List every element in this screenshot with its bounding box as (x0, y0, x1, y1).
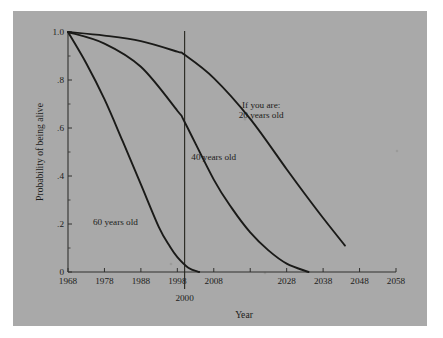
x-axis-tick-labels: 196819781988199820082028203820482058 (59, 276, 406, 286)
x-axis-title: Year (235, 309, 253, 320)
annotation-forty: 40 years old (191, 152, 236, 162)
x-tick-label: 2048 (350, 276, 369, 286)
y-tick-label: .2 (57, 219, 64, 229)
x-tick-label: 2058 (387, 276, 406, 286)
y-axis-ticks (68, 32, 72, 272)
x-tick-label: 2028 (277, 276, 296, 286)
y-tick-label: 0 (59, 267, 64, 277)
annotation-if-you-are: If you are:20 years old (239, 100, 284, 121)
y-tick-label: .6 (57, 123, 64, 133)
x-tick-label: 1968 (59, 276, 78, 286)
y-axis-tick-labels: 0.2.4.6.81.0 (53, 27, 65, 277)
y-tick-label: .8 (57, 75, 64, 85)
reference-line-2000: 2000 (175, 31, 194, 303)
curve-60-years-old (68, 32, 199, 272)
y-tick-label: 1.0 (53, 27, 65, 37)
y-tick-label: .4 (57, 171, 64, 181)
reference-line-label: 2000 (175, 293, 194, 303)
y-axis-title: Probability of being alive (34, 103, 45, 201)
x-tick-label: 2008 (205, 276, 224, 286)
x-tick-label: 2038 (314, 276, 333, 286)
x-tick-label: 1988 (132, 276, 151, 286)
x-axis-ticks (68, 268, 396, 272)
x-tick-label: 1978 (95, 276, 114, 286)
survival-probability-chart: 196819781988199820082028203820482058 0.2… (13, 11, 427, 326)
curve-40-years-old (68, 32, 309, 272)
chart-annotations: If you are:20 years old40 years old60 ye… (93, 100, 284, 228)
chart-panel: 196819781988199820082028203820482058 0.2… (13, 11, 427, 326)
paper-speckles (170, 118, 398, 275)
annotation-sixty: 60 years old (93, 217, 138, 227)
figure-container: 196819781988199820082028203820482058 0.2… (0, 0, 443, 338)
curve-20-years-old (68, 32, 345, 246)
